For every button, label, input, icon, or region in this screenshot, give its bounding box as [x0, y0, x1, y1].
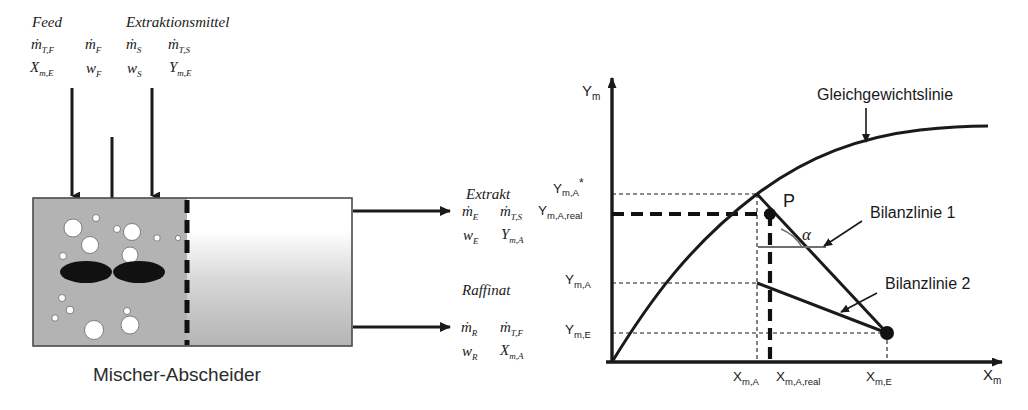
point-label-p: P	[783, 191, 795, 212]
angle-label-alpha: α	[802, 225, 811, 245]
outlet-extract-symbol-4: Ym,A	[501, 226, 524, 245]
outlet-extract-title: Extrakt	[466, 186, 510, 203]
annotation-balance-line-2: Bilanzlinie 2	[885, 275, 970, 293]
outlet-raffinate-symbol-1: ṁR	[461, 319, 477, 338]
y-tick-label-ym-e: Ym,E	[565, 322, 591, 340]
outlet-raffinate-symbol-4: Xm,A	[500, 342, 523, 361]
outlet-extract-symbol-3: wE	[463, 227, 479, 246]
y-tick-label-ym-a-real: Ym,A,real	[538, 203, 582, 221]
outlet-extract-symbol-1: ṁE	[462, 203, 478, 222]
annotation-balance-line-1: Bilanzlinie 1	[870, 204, 955, 222]
outlet-extract-symbol-2: ṁT,S	[500, 203, 522, 222]
y-tick-label-ym-a: Ym,A	[565, 272, 591, 290]
outlet-raffinate-symbol-2: ṁT,F	[500, 319, 523, 338]
figure-root: Feed ṁT,F ṁF Xm,E wF Extraktionsmittel ṁ…	[0, 0, 1028, 410]
outlet-raffinate-symbol-3: wR	[462, 343, 478, 362]
mixer-settler-diagram: Feed ṁT,F ṁF Xm,E wF Extraktionsmittel ṁ…	[0, 0, 520, 410]
annotation-equilibrium-line: Gleichgewichtslinie	[817, 86, 953, 104]
diagram-caption: Mischer-Abscheider	[93, 364, 261, 386]
x-tick-label-xm-a: Xm,A	[733, 369, 759, 387]
x-tick-label-xm-a-real: Xm,A,real	[776, 369, 820, 387]
y-axis-title: Ym	[582, 82, 600, 102]
x-tick-label-xm-e: Xm,E	[866, 369, 892, 387]
outlet-raffinate-title: Raffinat	[462, 282, 510, 299]
equilibrium-chart: Ym Xm Ym,A* Ym,A,real Ym,A Ym,E Xm,A Xm,…	[540, 0, 1028, 410]
vessel-graphic	[0, 0, 520, 410]
x-axis-title: Xm	[983, 366, 1001, 386]
y-tick-label-ym-a-star: Ym,A*	[553, 176, 584, 198]
